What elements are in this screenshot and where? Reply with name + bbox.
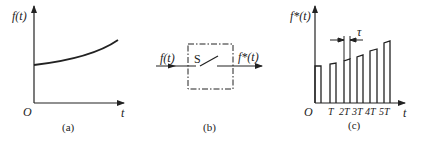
panel-b: f(t) S f*(t) (b)	[156, 44, 262, 134]
panel-c: τ f*(t) O T 2T 3T 4T 5T t (c)	[290, 6, 407, 132]
pulse-2	[344, 59, 350, 103]
tick-2T: 2T	[339, 106, 351, 117]
pulse-1	[330, 63, 336, 103]
caption-c: (c)	[348, 119, 361, 132]
tick-4T: 4T	[365, 106, 377, 117]
tick-5T: 5T	[379, 106, 391, 117]
tau-label: τ	[357, 25, 362, 39]
panel-a: f(t) O t (a)	[12, 6, 125, 134]
tick-T: T	[328, 106, 335, 117]
output-label: f*(t)	[238, 50, 259, 64]
pulse-5	[384, 41, 390, 103]
pulse-4	[370, 49, 377, 103]
tick-3T: 3T	[351, 106, 364, 117]
signal-curve	[34, 40, 118, 65]
origin-label: O	[304, 105, 313, 119]
caption-a: (a)	[62, 121, 75, 134]
input-label: f(t)	[160, 51, 175, 65]
pulse-0	[315, 66, 321, 103]
caption-b: (b)	[203, 121, 216, 134]
x-axis-label: t	[121, 106, 125, 120]
pulse-3	[357, 55, 363, 103]
sampling-diagram: f(t) O t (a) f(t) S f*(t) (b)	[0, 0, 425, 141]
x-axis-label: t	[403, 106, 407, 120]
switch-label: S	[194, 52, 201, 66]
pulse-train	[315, 41, 390, 103]
y-axis-label: f(t)	[12, 9, 27, 23]
origin-label: O	[23, 105, 32, 119]
switch-blade	[200, 56, 218, 66]
y-axis-label: f*(t)	[290, 9, 311, 23]
